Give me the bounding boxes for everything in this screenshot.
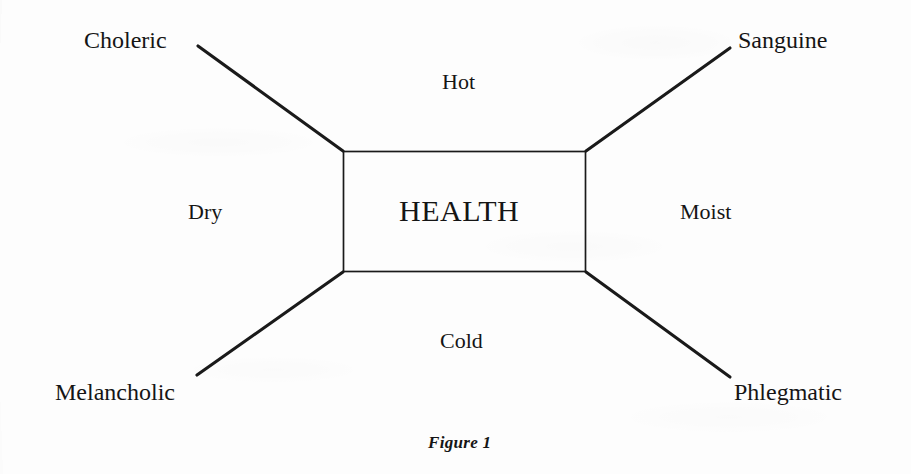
label-moist: Moist [680,201,731,223]
figure-caption: Figure 1 [428,434,491,451]
label-dry: Dry [188,201,222,223]
label-hot: Hot [442,71,475,93]
label-sanguine: Sanguine [738,28,827,52]
label-melancholic: Melancholic [55,380,175,404]
figure-container: Choleric Sanguine Melancholic Phlegmatic… [0,0,911,474]
connector-line-choleric [198,46,343,151]
label-cold: Cold [440,330,483,352]
label-health: HEALTH [399,196,519,226]
label-phlegmatic: Phlegmatic [734,380,842,404]
connector-line-sanguine [586,48,730,151]
connector-line-melancholic [197,272,343,375]
connector-line-phlegmatic [586,272,730,377]
label-choleric: Choleric [84,28,167,52]
